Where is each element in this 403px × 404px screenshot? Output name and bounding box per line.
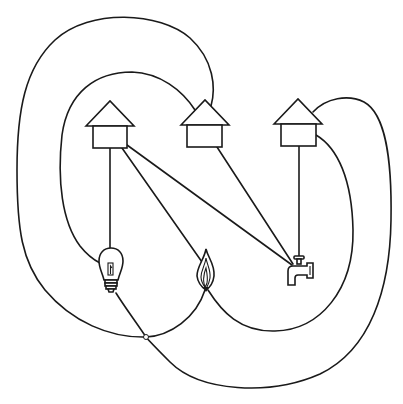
- connection-house1-gas: [122, 148, 202, 262]
- house-2: [181, 100, 229, 147]
- utilities-diagram: [0, 0, 403, 404]
- house-roof: [181, 100, 229, 125]
- connection-house2-water: [217, 147, 293, 264]
- house-roof: [274, 99, 322, 124]
- connection-house1-water: [127, 145, 292, 265]
- light-bulb-icon: [99, 248, 123, 292]
- faucet-icon: [288, 256, 313, 285]
- house-roof: [86, 101, 134, 126]
- house-body: [281, 124, 316, 146]
- house-3: [274, 99, 322, 146]
- connection-house3-electricity: [116, 98, 391, 388]
- crossing-point: [144, 335, 149, 340]
- flame-icon: [197, 249, 214, 292]
- house-body: [187, 125, 222, 147]
- house-body: [93, 126, 127, 148]
- house-1: [86, 101, 134, 148]
- connection-house3-gas: [208, 135, 353, 331]
- connection-house2-electricity: [60, 72, 195, 263]
